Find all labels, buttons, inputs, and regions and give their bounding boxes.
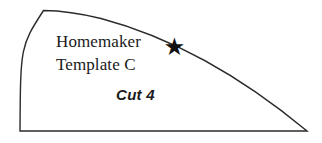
asterisk-icon: ★	[165, 38, 182, 55]
template-name-line1: Homemaker	[56, 33, 141, 50]
pattern-template-figure: Homemaker Template C Cut 4 ★	[0, 0, 322, 143]
cut-quantity-label: Cut 4	[116, 87, 155, 102]
pattern-piece-outline	[0, 0, 322, 143]
template-name-line2: Template C	[56, 56, 136, 73]
